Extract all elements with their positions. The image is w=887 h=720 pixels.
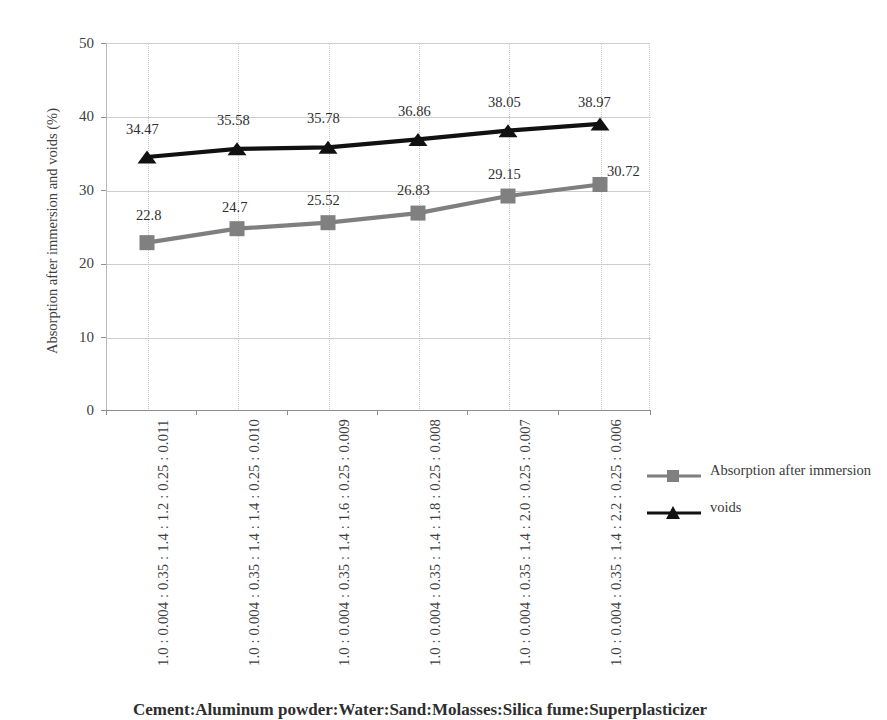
figure-caption: Cement:Aluminum powder:Water:Sand:Molass…: [133, 700, 833, 720]
absorption-data-label-5: 30.72: [607, 163, 640, 180]
voids-data-label-3: 36.86: [398, 103, 431, 120]
absorption-data-label-0: 22.8: [136, 207, 161, 224]
absorption-marker-2: [321, 215, 336, 230]
legend-key-square-icon: [646, 468, 702, 484]
y-tick-label-50: 50: [52, 35, 94, 52]
y-tick-label-30: 30: [52, 182, 94, 199]
voids-markers: [138, 117, 610, 163]
y-tick-label-0: 0: [52, 402, 94, 419]
absorption-marker-1: [230, 221, 245, 236]
absorption-marker-0: [140, 235, 155, 250]
absorption-data-label-2: 25.52: [307, 192, 340, 209]
y-tick-label-10: 10: [52, 329, 94, 346]
y-axis-title: Absorption after immersion and voids (%): [44, 42, 61, 420]
voids-data-label-2: 35.78: [307, 110, 340, 127]
series-layer: [106, 43, 650, 410]
voids-line: [147, 124, 600, 157]
x-axis-line: [106, 410, 651, 411]
chart-legend: Absorption after immersion voids: [646, 462, 886, 536]
y-tick-label-40: 40: [52, 108, 94, 125]
legend-label-voids: voids: [710, 499, 741, 516]
y-tick-label-20: 20: [52, 255, 94, 272]
x-tick-mark-6: [650, 410, 651, 415]
x-tick-mark-3: [377, 410, 378, 415]
x-tick-mark-2: [287, 410, 288, 415]
absorption-data-label-1: 24.7: [222, 199, 247, 216]
x-category-label-2: 1.0 : 0.004 : 0.35 : 1.4 : 1.6 : 0.25 : …: [336, 419, 353, 666]
voids-data-label-0: 34.47: [126, 121, 159, 138]
x-category-label-4: 1.0 : 0.004 : 0.35 : 1.4 : 2.0 : 0.25 : …: [517, 419, 534, 666]
x-category-label-1: 1.0 : 0.004 : 0.35 : 1.4 : 1.4 : 0.25 : …: [246, 419, 263, 666]
x-tick-mark-1: [196, 410, 197, 415]
absorption-data-label-3: 26.83: [397, 182, 430, 199]
absorption-data-label-4: 29.15: [488, 166, 521, 183]
legend-label-absorption: Absorption after immersion: [710, 462, 871, 479]
x-tick-mark-0: [106, 410, 107, 415]
voids-data-label-1: 35.58: [217, 112, 250, 129]
absorption-markers: [140, 177, 608, 250]
x-category-label-3: 1.0 : 0.004 : 0.35 : 1.4 : 1.8 : 0.25 : …: [427, 419, 444, 666]
absorption-marker-3: [411, 206, 426, 221]
x-category-label-5: 1.0 : 0.004 : 0.35 : 1.4 : 2.2 : 0.25 : …: [608, 419, 625, 666]
legend-item-absorption[interactable]: Absorption after immersion: [646, 462, 886, 499]
legend-item-voids[interactable]: voids: [646, 499, 886, 536]
x-tick-mark-5: [558, 410, 559, 415]
x-tick-mark-4: [467, 410, 468, 415]
voids-data-label-4: 38.05: [488, 94, 521, 111]
absorption-marker-5: [593, 177, 608, 192]
x-category-label-0: 1.0 : 0.004 : 0.35 : 1.4 : 1.2 : 0.25 : …: [155, 419, 172, 666]
legend-key-triangle-icon: [646, 505, 702, 521]
voids-data-label-5: 38.97: [578, 94, 611, 111]
absorption-marker-4: [501, 189, 516, 204]
absorption-line: [147, 185, 600, 243]
chart-figure: Absorption after immersion and voids (%)…: [0, 0, 887, 720]
